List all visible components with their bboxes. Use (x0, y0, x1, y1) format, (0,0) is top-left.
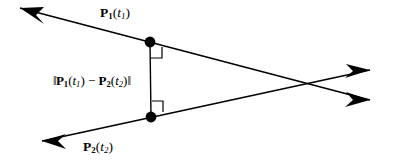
arrowhead-p2-start-icon (42, 134, 66, 149)
label-line-p1: P1(t1) (100, 6, 130, 21)
arrowhead-p1-end-icon (345, 92, 370, 107)
distance-first-symbol: P (56, 73, 64, 88)
point-p1-t1 (145, 37, 156, 48)
segment-distance (150, 42, 151, 117)
label-p2-symbol: P (83, 139, 91, 154)
label-p1-symbol: P (100, 5, 108, 20)
geometry-figure: P1(t1) P2(t2) ‖P1(t1) − P2(t2)‖ (0, 0, 395, 163)
arrowhead-p1-start-icon (20, 7, 44, 24)
label-p1-close-paren: ) (125, 5, 130, 20)
label-line-p2: P2(t2) (83, 140, 113, 155)
point-p2-t2 (146, 112, 157, 123)
norm-close-bar: ‖ (127, 73, 130, 88)
arrowhead-p2-end-icon (345, 64, 370, 78)
right-angle-mark-top-icon (151, 47, 162, 58)
right-angle-mark-bottom-icon (152, 101, 163, 112)
label-p2-close-paren: ) (108, 139, 113, 154)
label-distance: ‖P1(t1) − P2(t2)‖ (53, 74, 130, 89)
distance-second-symbol: P (99, 73, 107, 88)
